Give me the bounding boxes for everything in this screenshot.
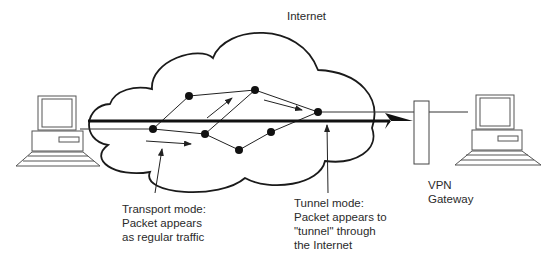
tunnel-label-line: Packet appears to xyxy=(294,210,387,224)
callout-pointers xyxy=(155,125,328,193)
gateway-label-line: VPN xyxy=(428,178,473,192)
vpn-diagram xyxy=(0,0,555,262)
tunnel-label-line: "tunnel" through xyxy=(294,224,387,238)
right-computer-icon xyxy=(455,95,541,165)
transport-label-line: Packet appears xyxy=(122,216,206,230)
tunnel-label-line: Tunnel mode: xyxy=(294,196,387,210)
internet-label: Internet xyxy=(287,9,326,23)
transport-label-line: as regular traffic xyxy=(122,230,206,244)
vpn-gateway-label: VPN Gateway xyxy=(428,178,473,206)
transport-mode-label: Transport mode: Packet appears as regula… xyxy=(122,202,206,244)
transport-label-line: Transport mode: xyxy=(122,202,206,216)
vpn-gateway-device xyxy=(414,101,429,164)
tunnel-label-line: the Internet xyxy=(294,238,387,252)
tunnel-mode-label: Tunnel mode: Packet appears to "tunnel" … xyxy=(294,196,387,252)
gateway-label-line: Gateway xyxy=(428,192,473,206)
left-computer-icon xyxy=(16,96,100,166)
